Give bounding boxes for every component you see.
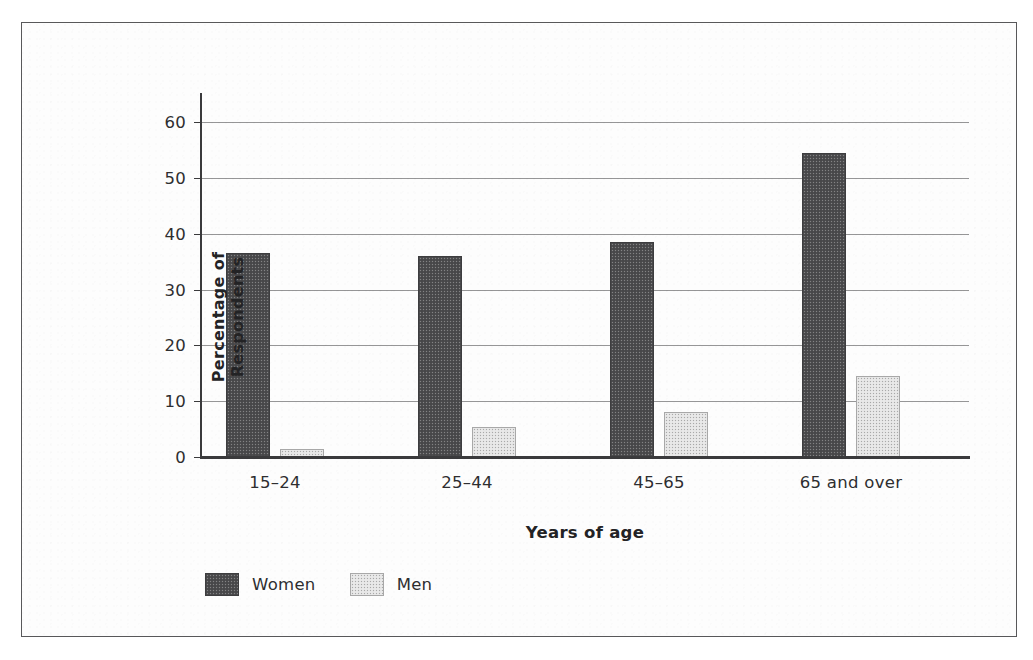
y-axis-line (200, 93, 202, 459)
bar-women-1 (418, 256, 462, 457)
legend-swatch-men (350, 573, 384, 596)
y-axis-tick-20 (194, 345, 202, 346)
legend-item-women: Women (205, 573, 316, 596)
gridline-20 (201, 345, 969, 346)
y-axis-title-wrapper: Percentage of Respondents (110, 148, 140, 448)
gridline-50 (201, 178, 969, 179)
y-axis-tick-label: 60 (146, 113, 186, 132)
y-axis-tick-labels: 0102030405060 (140, 23, 186, 660)
gridline-10 (201, 401, 969, 402)
y-axis-title: Percentage of Respondents (209, 192, 247, 442)
bar-women-2 (610, 242, 654, 457)
y-axis-tick-50 (194, 178, 202, 179)
y-axis-tick-label: 0 (146, 448, 186, 467)
y-axis-tick-label: 50 (146, 168, 186, 187)
y-axis-tick-label: 40 (146, 224, 186, 243)
x-axis-line (201, 456, 970, 459)
y-axis-tick-label: 10 (146, 392, 186, 411)
legend-label: Men (397, 575, 433, 594)
legend: WomenMen (205, 573, 432, 596)
plot-area (201, 122, 969, 457)
gridline-30 (201, 290, 969, 291)
y-axis-tick-60 (194, 122, 202, 123)
y-axis-tick-30 (194, 290, 202, 291)
y-axis-tick-40 (194, 234, 202, 235)
x-axis-category-label: 45–65 (633, 473, 685, 492)
x-axis-category-label: 25–44 (441, 473, 493, 492)
gridline-40 (201, 234, 969, 235)
y-axis-tick-10 (194, 401, 202, 402)
legend-item-men: Men (350, 573, 433, 596)
figure-frame: 0102030405060 15–2425–4445–6565 and over… (21, 22, 1017, 637)
bar-women-3 (802, 153, 846, 457)
gridline-60 (201, 122, 969, 123)
bar-men-2 (664, 412, 708, 457)
bar-men-3 (856, 376, 900, 457)
x-axis-title: Years of age (201, 523, 969, 542)
y-axis-tick-label: 20 (146, 336, 186, 355)
bar-men-1 (472, 427, 516, 457)
y-axis-tick-label: 30 (146, 280, 186, 299)
legend-swatch-women (205, 573, 239, 596)
legend-label: Women (252, 575, 316, 594)
x-axis-category-label: 15–24 (249, 473, 301, 492)
y-axis-tick-0 (194, 457, 202, 458)
x-axis-category-label: 65 and over (800, 473, 903, 492)
